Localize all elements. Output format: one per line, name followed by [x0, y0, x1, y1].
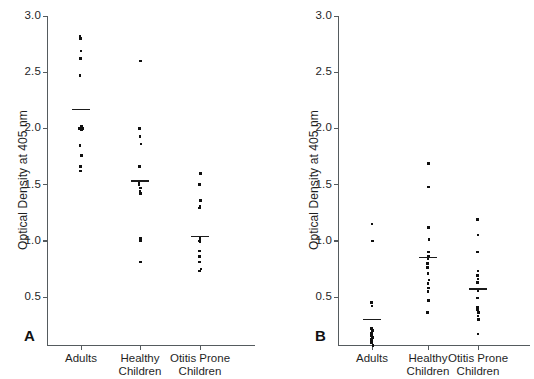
mean-bar: [131, 180, 149, 182]
data-point: [427, 299, 430, 302]
y-tick-3.0: [43, 16, 48, 17]
data-point: [426, 311, 429, 314]
data-point: [427, 251, 430, 254]
y-tick-2.5: [334, 72, 339, 73]
data-point: [426, 262, 429, 265]
y-tick-label: 2.5: [11, 65, 41, 77]
x-label-line1: Otitis Prone: [155, 352, 245, 365]
data-point: [139, 261, 142, 264]
y-tick-2.0: [334, 128, 339, 129]
panel-b: Optical Density at 405 nm B 3.02.52.01.5…: [267, 0, 534, 379]
panel-b-x-axis: [338, 345, 530, 346]
y-tick-label: 3.0: [11, 9, 41, 21]
y-tick-label: 2.0: [11, 121, 41, 133]
data-point: [427, 226, 430, 229]
figure-caption: [2, 372, 532, 379]
data-point: [427, 287, 430, 290]
mean-bar: [363, 319, 381, 321]
x-tick: [478, 345, 479, 350]
data-point: [80, 50, 83, 53]
data-point: [198, 183, 201, 186]
mean-bar: [419, 257, 437, 259]
data-point: [476, 297, 479, 300]
data-point: [476, 218, 479, 221]
y-tick-1.5: [334, 184, 339, 185]
x-tick: [428, 345, 429, 350]
mean-bar: [72, 109, 90, 111]
data-point: [198, 255, 201, 258]
y-tick-label: 2.5: [302, 65, 332, 77]
y-tick-1.0: [334, 240, 339, 241]
mean-bar: [469, 288, 487, 290]
y-tick-0.5: [334, 297, 339, 298]
data-point: [372, 344, 375, 347]
data-point: [139, 135, 142, 138]
panel-b-plot-area: Optical Density at 405 nm B 3.02.52.01.5…: [267, 0, 534, 379]
x-tick: [140, 345, 141, 350]
data-point: [140, 143, 143, 146]
data-point: [138, 183, 141, 186]
y-tick-label: 0.5: [302, 290, 332, 302]
data-point: [138, 127, 141, 130]
y-tick-1.0: [43, 240, 48, 241]
data-point: [79, 144, 82, 147]
data-point: [477, 278, 480, 281]
data-point: [198, 261, 201, 264]
y-tick-3.0: [334, 16, 339, 17]
data-point: [477, 234, 480, 237]
data-point: [198, 207, 201, 210]
data-point: [476, 251, 479, 254]
data-point: [139, 187, 142, 190]
data-point: [426, 266, 429, 269]
y-tick-label: 1.5: [11, 178, 41, 190]
y-tick-2.0: [43, 128, 48, 129]
panel-a-plot-area: Optical Density at 405 nm A 3.02.52.01.5…: [0, 0, 267, 379]
data-point: [371, 223, 374, 226]
data-point: [427, 162, 430, 165]
data-point: [199, 172, 202, 175]
panel-b-letter: B: [315, 327, 326, 344]
data-point: [427, 290, 430, 293]
y-tick-label: 3.0: [302, 9, 332, 21]
y-tick-2.5: [43, 72, 48, 73]
data-point: [198, 250, 201, 253]
data-point: [476, 281, 479, 284]
y-tick-label: 1.0: [11, 234, 41, 246]
data-point: [139, 240, 142, 243]
data-point: [199, 241, 202, 244]
data-point: [80, 154, 83, 157]
data-point: [371, 240, 374, 243]
data-point: [139, 60, 142, 63]
data-point: [79, 74, 82, 77]
y-tick-0.5: [43, 297, 48, 298]
x-tick: [200, 345, 201, 350]
data-point: [427, 186, 430, 189]
x-tick: [81, 345, 82, 350]
panel-a: Optical Density at 405 nm A 3.02.52.01.5…: [0, 0, 267, 379]
y-tick-label: 1.0: [302, 234, 332, 246]
data-point: [370, 301, 373, 304]
data-point: [138, 165, 141, 168]
data-point: [476, 274, 479, 277]
data-point: [80, 128, 83, 131]
data-point: [428, 279, 431, 282]
data-point: [428, 238, 431, 241]
data-point: [477, 315, 480, 318]
data-point: [477, 333, 480, 336]
data-point: [427, 282, 430, 285]
x-label-line1: Otitis Prone: [433, 352, 523, 365]
data-point: [198, 270, 201, 273]
mean-bar: [191, 236, 209, 238]
data-point: [371, 305, 374, 308]
data-point: [79, 57, 82, 60]
panel-a-x-axis: [47, 345, 255, 346]
data-point: [79, 37, 82, 40]
y-tick-label: 1.5: [302, 178, 332, 190]
data-point: [139, 192, 142, 195]
data-point: [477, 311, 480, 314]
y-tick-label: 0.5: [11, 290, 41, 302]
data-point: [199, 199, 202, 202]
panel-a-letter: A: [24, 327, 35, 344]
y-tick-label: 2.0: [302, 121, 332, 133]
data-point: [79, 165, 82, 168]
